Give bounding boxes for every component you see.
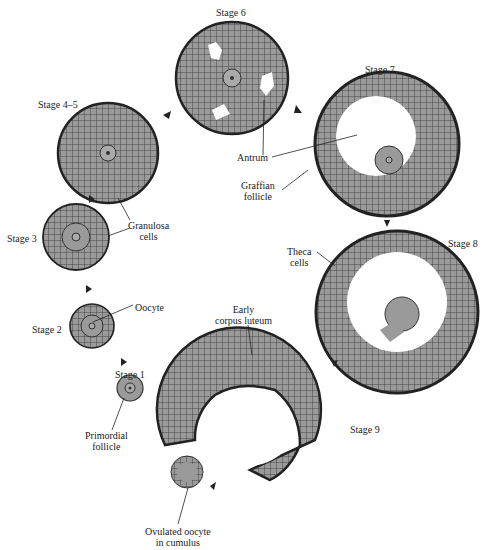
granulosa-cells-label: Granulosa cells [128,220,169,242]
stage45-follicle [58,103,158,203]
early-corpus-luteum-label: Early corpus luteum [215,304,272,326]
stage3-label: Stage 3 [7,233,37,244]
stage6-follicle [176,22,288,134]
stage2-follicle [70,304,114,348]
theca-cells-label: Theca cells [287,246,311,268]
stage7-label: Stage 7 [365,64,395,75]
stage45-label: Stage 4–5 [38,99,78,110]
stage9-label: Stage 9 [350,424,380,435]
ovulated-oocyte [171,456,203,488]
stage2-label: Stage 2 [32,324,62,335]
stage3-follicle [43,204,109,270]
follicle-diagram [0,0,487,550]
antrum-label: Antrum [237,152,268,163]
stage8-follicle [316,231,478,393]
stage7-follicle [315,72,459,216]
oocyte-label: Oocyte [135,302,164,313]
ovulated-oocyte-label: Ovulated oocyte in cumulus [145,526,211,548]
stage8-label: Stage 8 [448,238,478,249]
stage1-label: Stage 1 [115,369,145,380]
graffian-follicle-label: Graffian follicle [241,180,275,202]
stage6-label: Stage 6 [216,7,246,18]
primordial-follicle-label: Primordial follicle [85,430,128,452]
